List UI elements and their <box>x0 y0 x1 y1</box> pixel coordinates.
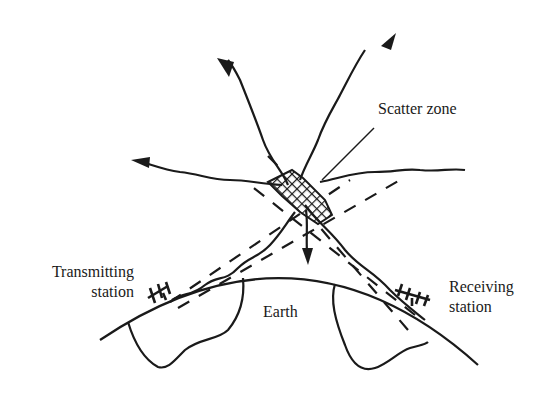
arrowheads <box>131 33 396 265</box>
ray-right <box>320 169 465 182</box>
transmitting-antenna-icon <box>148 282 170 303</box>
arrow-up-right-icon <box>381 33 396 50</box>
arrow-left-icon <box>131 157 150 168</box>
earth-horizon-curve <box>100 278 478 365</box>
rx-beam-lower <box>305 210 408 330</box>
ray-left <box>145 163 282 185</box>
scatter-zone-label: Scatter zone <box>378 100 457 118</box>
transmitting-station-label-line2: station <box>22 283 134 301</box>
continent-right-outline <box>333 284 428 369</box>
receiving-station-label-line2: station <box>449 298 492 316</box>
incident-ray <box>172 212 295 300</box>
earth-label: Earth <box>263 303 298 321</box>
receiving-station-label-line1: Receiving <box>449 278 514 296</box>
continent-left-outline <box>128 278 243 368</box>
ray-up-left <box>228 60 288 185</box>
transmitting-station-label-line1: Transmitting <box>22 263 134 281</box>
ray-down <box>306 210 307 252</box>
scatter-propagation-diagram <box>0 0 558 407</box>
receiving-antenna-icon <box>395 284 430 306</box>
ray-to-receiver <box>305 205 425 320</box>
arrow-down-icon <box>302 248 313 265</box>
arrow-up-left-icon <box>217 58 234 77</box>
ray-up-right <box>300 50 365 180</box>
